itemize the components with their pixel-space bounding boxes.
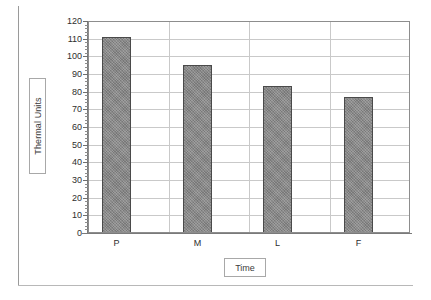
- y-axis-tick-label: 20: [48, 194, 82, 203]
- y-axis-tick-label: 40: [48, 158, 82, 167]
- x-axis-title-box: Time: [224, 258, 266, 277]
- y-axis-title-label: Thermal Units: [33, 97, 43, 154]
- x-axis-title-label: Time: [235, 263, 255, 273]
- gridline-vertical: [249, 21, 250, 233]
- y-axis-tick-label: 90: [48, 70, 82, 79]
- y-axis-tick-label: 100: [48, 52, 82, 61]
- y-axis-tick-label: 80: [48, 88, 82, 97]
- y-axis-tick-label: 10: [48, 211, 82, 220]
- bar-m: [183, 65, 212, 233]
- y-axis-tick-label: 50: [48, 141, 82, 150]
- x-axis-tick-label-m: M: [178, 238, 218, 248]
- x-axis-tick-label-l: L: [258, 238, 298, 248]
- y-axis-tick-label: 110: [48, 35, 82, 44]
- chart-screenshot: Thermal Units 01020304050607080901001101…: [0, 0, 431, 300]
- x-axis-tick-label-f: F: [339, 238, 379, 248]
- y-axis-tick-label: 60: [48, 123, 82, 132]
- document-frame-left-rule: [18, 6, 19, 286]
- gridline-vertical: [169, 21, 170, 233]
- bar-f: [344, 97, 373, 233]
- x-axis-line: [82, 233, 412, 234]
- y-axis-tick-label: 30: [48, 176, 82, 185]
- y-axis-tick-label: 120: [48, 17, 82, 26]
- y-axis-title-box: Thermal Units: [29, 78, 46, 174]
- x-axis-tick-label-p: P: [97, 238, 137, 248]
- bar-p: [102, 37, 131, 233]
- gridline-vertical: [330, 21, 331, 233]
- plot-area: [88, 21, 410, 233]
- y-axis-tick-label: 70: [48, 105, 82, 114]
- y-axis-tick-label: 0: [48, 229, 82, 238]
- document-frame-bottom-rule: [18, 285, 413, 286]
- bar-l: [263, 86, 292, 233]
